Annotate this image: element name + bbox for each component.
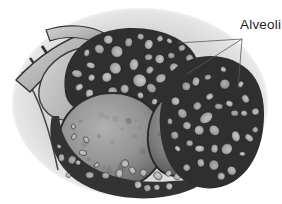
texture-dot bbox=[112, 116, 118, 122]
alveolus-cell bbox=[194, 125, 204, 135]
alveolar-cluster-right bbox=[160, 56, 264, 188]
alveolus-cell bbox=[195, 145, 205, 152]
texture-dot bbox=[98, 112, 105, 119]
texture-dot bbox=[79, 119, 83, 123]
alveoli-label: Alveoli bbox=[240, 18, 281, 32]
figure: Alveoli bbox=[0, 0, 282, 204]
texture-dot bbox=[121, 128, 124, 131]
texture-dot bbox=[138, 126, 142, 130]
texture-dot bbox=[125, 118, 132, 125]
alveolus-cell bbox=[116, 169, 124, 178]
alveolus-cell bbox=[239, 151, 245, 156]
alveolus-cell bbox=[167, 118, 173, 125]
alveolus-cell bbox=[220, 79, 231, 89]
alveolus-cell bbox=[58, 154, 65, 162]
texture-dot bbox=[97, 134, 101, 138]
alveolus-cell bbox=[66, 173, 71, 178]
alveolus-cell bbox=[120, 84, 129, 94]
alveolus-cell bbox=[211, 144, 218, 153]
texture-dot bbox=[134, 118, 138, 122]
texture-dot bbox=[132, 133, 138, 139]
texture-dot bbox=[102, 166, 106, 170]
texture-dot bbox=[140, 148, 146, 154]
alveolus-cell bbox=[214, 103, 223, 110]
alveolus-cell bbox=[85, 171, 94, 178]
alveolus-cell bbox=[217, 173, 225, 181]
texture-dot bbox=[110, 140, 115, 145]
texture-dot bbox=[107, 165, 110, 168]
texture-dot bbox=[104, 115, 109, 120]
texture-dot bbox=[87, 157, 91, 161]
alveolus-cell bbox=[231, 110, 239, 117]
